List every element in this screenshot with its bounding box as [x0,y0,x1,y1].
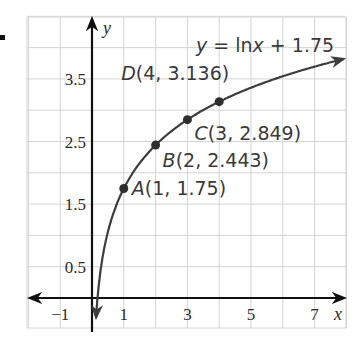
x-tick-label: 3 [183,305,192,324]
x-axis-label: x [333,304,342,324]
point-label-d: D(4, 3.136) [121,62,229,84]
y-tick-label: 3.5 [65,70,86,89]
equation-label: y = lnx + 1.75 [195,34,334,56]
x-tick-label: 5 [247,305,256,324]
x-tick-label: −1 [51,305,69,324]
point-label-b: B(2, 2.443) [163,149,269,171]
problem-marker [0,35,5,40]
point-a [119,184,128,193]
point-label-a: A(1, 1.75) [130,177,226,199]
log-function-chart: −113570.51.52.53.5xyA(1, 1.75)B(2, 2.443… [0,0,361,346]
x-tick-label: 1 [120,305,129,324]
y-tick-label: 1.5 [65,195,86,214]
y-tick-label: 0.5 [65,258,86,277]
y-tick-label: 2.5 [65,133,86,152]
x-tick-label: 7 [310,305,319,324]
point-b [151,141,160,150]
labels: −113570.51.52.53.5xyA(1, 1.75)B(2, 2.443… [0,18,342,324]
point-label-c: C(3, 2.849) [194,122,301,144]
point-d [215,97,224,106]
point-c [183,115,192,124]
y-axis-label: y [101,18,111,38]
